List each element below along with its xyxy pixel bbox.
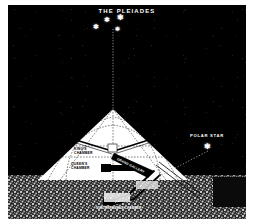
kings-chamber-line2: CHAMBER bbox=[74, 151, 93, 155]
bedrock-shadow bbox=[213, 177, 246, 207]
subterranean-chamber-label: SUBTERRANEAN CHAMBER bbox=[96, 206, 141, 210]
ground-structure-left bbox=[104, 193, 130, 202]
ground-structure-right bbox=[136, 181, 158, 189]
queens-chamber-line2: CHAMBER bbox=[71, 166, 90, 170]
sky-plate: THE PLEIADES ✱ ✱ ✱ ✱ POLAR STAR ✱ bbox=[8, 5, 246, 219]
pyramid-astronomy-figure: THE PLEIADES ✱ ✱ ✱ ✱ POLAR STAR ✱ bbox=[0, 0, 254, 224]
figure-vector bbox=[8, 5, 246, 219]
queens-chamber-box bbox=[101, 164, 111, 172]
kings-chamber-label: KING'S CHAMBER bbox=[74, 148, 93, 156]
queens-chamber-label: QUEEN'S CHAMBER bbox=[71, 163, 90, 171]
kings-chamber-box bbox=[108, 144, 117, 152]
